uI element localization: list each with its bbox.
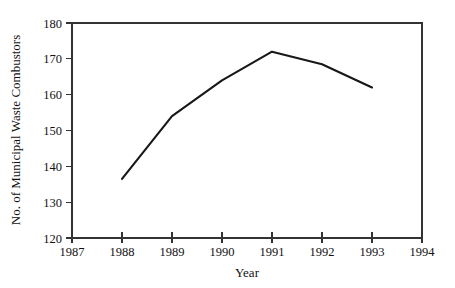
x-tick-label-1988: 1988 xyxy=(110,245,135,259)
x-axis-tick-labels: 1987 1988 1989 1990 1991 1992 1993 1994 xyxy=(60,245,436,259)
data-series-line xyxy=(122,52,372,179)
y-tick-label-170: 170 xyxy=(43,52,62,66)
x-tick-label-1990: 1990 xyxy=(210,245,235,259)
y-tick-label-150: 150 xyxy=(43,124,62,138)
y-tick-label-140: 140 xyxy=(43,160,62,174)
y-axis-title: No. of Municipal Waste Combustors xyxy=(8,35,23,225)
y-tick-label-120: 120 xyxy=(43,232,62,246)
x-tick-label-1991: 1991 xyxy=(260,245,285,259)
x-tick-label-1987: 1987 xyxy=(60,245,85,259)
y-tick-label-180: 180 xyxy=(43,17,62,31)
y-tick-label-160: 160 xyxy=(43,88,62,102)
y-tick-label-130: 130 xyxy=(43,196,62,210)
chart-container: 180 170 160 150 140 130 120 1987 1988 19… xyxy=(0,0,455,288)
x-tick-label-1989: 1989 xyxy=(160,245,185,259)
y-axis-tick-labels: 180 170 160 150 140 130 120 xyxy=(43,17,62,246)
plot-frame xyxy=(72,23,422,238)
x-tick-label-1992: 1992 xyxy=(310,245,335,259)
x-axis-title: Year xyxy=(235,265,260,280)
x-tick-label-1994: 1994 xyxy=(410,245,436,259)
line-chart: 180 170 160 150 140 130 120 1987 1988 19… xyxy=(0,0,455,288)
x-tick-label-1993: 1993 xyxy=(360,245,385,259)
y-axis-ticks xyxy=(66,23,72,238)
